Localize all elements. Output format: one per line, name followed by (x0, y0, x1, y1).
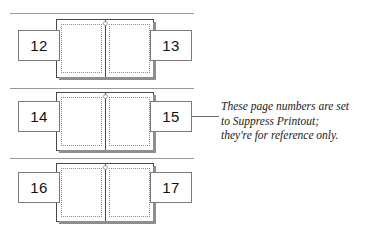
spread-spine (105, 164, 106, 221)
margin-guide-left (61, 168, 102, 217)
note-line: they're for reference only. (221, 128, 349, 143)
leader-line-to-note (192, 116, 219, 117)
spine-notch-icon (103, 94, 108, 99)
note-line: to Suppress Printout; (221, 114, 349, 129)
rule-top (10, 13, 194, 14)
spread-12-13 (56, 19, 154, 78)
page-number-box-12: 12 (18, 30, 60, 61)
spread-shadow-bottom (59, 221, 155, 224)
page-number-box-16: 16 (18, 172, 60, 203)
rule-middle (10, 88, 194, 89)
spread-14-15 (56, 92, 154, 151)
margin-guide-right (109, 97, 150, 146)
spread-spine (105, 93, 106, 150)
rule-bottom (10, 158, 194, 159)
margin-guide-right (109, 24, 150, 73)
page-number-box-13: 13 (150, 30, 192, 61)
margin-guide-left (61, 24, 102, 73)
spine-notch-icon (103, 165, 108, 170)
spread-pages (57, 93, 153, 150)
spread-pages (57, 20, 153, 77)
spine-notch-icon (103, 21, 108, 26)
diagram-canvas: 121314151617These page numbers are setto… (0, 0, 380, 244)
margin-guide-right (109, 168, 150, 217)
spread-shadow-bottom (59, 77, 155, 80)
page-number-box-14: 14 (18, 101, 60, 132)
spread-pages (57, 164, 153, 221)
spread-shadow-bottom (59, 150, 155, 153)
page-number-box-17: 17 (150, 172, 192, 203)
page-number-box-15: 15 (150, 101, 192, 132)
spread-16-17 (56, 163, 154, 222)
suppress-printout-note: These page numbers are setto Suppress Pr… (221, 99, 349, 143)
note-line: These page numbers are set (221, 99, 349, 114)
spread-spine (105, 20, 106, 77)
margin-guide-left (61, 97, 102, 146)
